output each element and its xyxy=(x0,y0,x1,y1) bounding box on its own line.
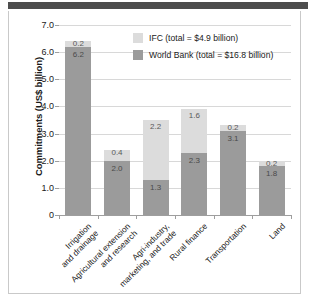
figure-root: Commitments (US$ billion) 7.06.05.04.03.… xyxy=(0,0,316,298)
x-tick-mark xyxy=(59,215,60,219)
x-tick-mark xyxy=(136,215,137,219)
chart-legend: IFC (total = $4.9 billion) World Bank (t… xyxy=(133,33,273,67)
x-tick-mark xyxy=(291,215,292,219)
x-tick-mark xyxy=(98,215,99,219)
chart-panel: Commitments (US$ billion) 7.06.05.04.03.… xyxy=(8,11,301,294)
bar-group[interactable]: 2.21.3 xyxy=(143,120,169,215)
bar-segment-world-bank[interactable]: 6.2 xyxy=(65,47,91,215)
gridline xyxy=(59,134,291,135)
gridline xyxy=(59,188,291,189)
bar-group[interactable]: 0.42.0 xyxy=(104,150,130,215)
bar-group[interactable]: 0.23.1 xyxy=(220,125,246,215)
bar-value-label-world-bank: 1.8 xyxy=(259,170,285,178)
bar-segment-ifc[interactable]: 0.4 xyxy=(104,150,130,161)
y-tick-label: 6.0 xyxy=(41,47,54,57)
gridline xyxy=(59,25,291,26)
y-tick-mark xyxy=(55,79,59,80)
y-tick-label: 2.0 xyxy=(41,156,54,166)
bar-segment-world-bank[interactable]: 2.0 xyxy=(104,161,130,215)
y-axis-title: Commitments (US$ billion) xyxy=(33,42,44,192)
top-rule-decoration xyxy=(8,2,308,9)
y-tick-label: 4.0 xyxy=(41,101,54,111)
y-tick-label: 7.0 xyxy=(41,20,54,30)
y-tick-mark xyxy=(55,52,59,53)
bar-segment-world-bank[interactable]: 1.3 xyxy=(143,180,169,215)
y-tick-mark xyxy=(55,161,59,162)
x-tick-mark xyxy=(214,215,215,219)
bar-value-label-ifc: 2.2 xyxy=(143,123,169,131)
bar-segment-world-bank[interactable]: 2.3 xyxy=(181,153,207,215)
bar-value-label-world-bank: 6.2 xyxy=(65,51,91,59)
gridline xyxy=(59,79,291,80)
bar-value-label-ifc: 0.4 xyxy=(104,149,130,157)
legend-item-ifc: IFC (total = $4.9 billion) xyxy=(133,33,273,43)
bar-value-label-world-bank: 1.3 xyxy=(143,184,169,192)
y-tick-mark xyxy=(55,25,59,26)
legend-label-world-bank: World Bank (total = $16.8 billion) xyxy=(149,50,273,60)
y-tick-mark xyxy=(55,134,59,135)
legend-item-world-bank: World Bank (total = $16.8 billion) xyxy=(133,50,273,60)
legend-swatch-ifc-icon xyxy=(133,33,143,43)
bar-value-label-ifc: 1.6 xyxy=(181,112,207,120)
y-tick-label: 5.0 xyxy=(41,74,54,84)
bar-segment-world-bank[interactable]: 3.1 xyxy=(220,131,246,215)
legend-swatch-world-bank-icon xyxy=(133,50,143,60)
bar-group[interactable]: 0.26.2 xyxy=(65,41,91,215)
bar-value-label-world-bank: 2.0 xyxy=(104,165,130,173)
bar-value-label-world-bank: 3.1 xyxy=(220,135,246,143)
y-tick-label: 0 xyxy=(49,210,54,220)
y-tick-mark xyxy=(55,188,59,189)
bar-group[interactable]: 1.62.3 xyxy=(181,109,207,215)
gridline xyxy=(59,106,291,107)
bar-group[interactable]: 0.21.8 xyxy=(259,161,285,215)
y-tick-label: 1.0 xyxy=(41,183,54,193)
bar-segment-ifc[interactable]: 2.2 xyxy=(143,120,169,180)
y-tick-label: 3.0 xyxy=(41,129,54,139)
bar-segment-ifc[interactable]: 1.6 xyxy=(181,109,207,152)
bar-segment-world-bank[interactable]: 1.8 xyxy=(259,166,285,215)
legend-label-ifc: IFC (total = $4.9 billion) xyxy=(149,33,238,43)
x-tick-mark xyxy=(252,215,253,219)
gridline xyxy=(59,161,291,162)
bar-value-label-world-bank: 2.3 xyxy=(181,157,207,165)
x-tick-mark xyxy=(175,215,176,219)
y-tick-mark xyxy=(55,106,59,107)
